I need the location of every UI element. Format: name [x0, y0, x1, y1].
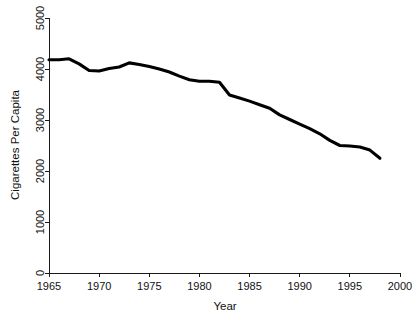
x-tick-label: 1970: [87, 280, 111, 292]
x-tick-label: 1995: [338, 280, 362, 292]
y-tick-label: 2000: [34, 159, 46, 183]
series-group: [49, 59, 380, 158]
y-tick-label: 0: [34, 270, 46, 276]
x-tick-label: 1990: [287, 280, 311, 292]
y-tick-group: 010002000300040005000: [34, 6, 50, 276]
x-tick-label: 1985: [237, 280, 261, 292]
x-tick-label: 1965: [37, 280, 61, 292]
chart-container: 010002000300040005000 196519701975198019…: [0, 0, 418, 322]
y-tick-label: 4000: [34, 57, 46, 81]
y-axis-title: Cigarettes Per Capita: [9, 89, 21, 200]
x-tick-label: 2000: [388, 280, 412, 292]
y-tick-label: 3000: [34, 108, 46, 132]
x-tick-group: 19651970197519801985199019952000: [37, 273, 412, 292]
y-tick-label: 1000: [34, 210, 46, 234]
line-chart: 010002000300040005000 196519701975198019…: [0, 0, 418, 322]
x-tick-label: 1980: [187, 280, 211, 292]
x-tick-label: 1975: [137, 280, 161, 292]
x-axis-title: Year: [213, 300, 236, 312]
data-line-cigarettes-per-capita: [49, 59, 380, 158]
y-tick-label: 5000: [34, 6, 46, 30]
